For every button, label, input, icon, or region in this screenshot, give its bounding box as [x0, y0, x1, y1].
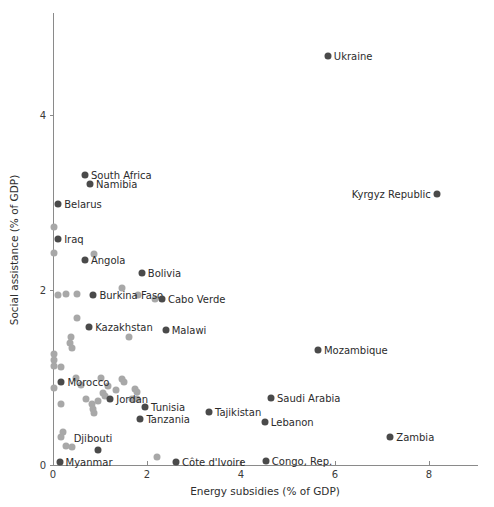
point-label: Ukraine: [334, 50, 373, 61]
data-point: [50, 250, 57, 257]
point-label: Morocco: [67, 376, 109, 387]
point-label: Lebanon: [271, 417, 314, 428]
data-point-malawi: [162, 326, 169, 333]
data-point-saudi-arabia: [267, 394, 274, 401]
data-point-jordan: [107, 395, 114, 402]
data-point: [57, 400, 64, 407]
data-point-lebanon: [261, 419, 268, 426]
data-point-cabo-verde: [158, 295, 165, 302]
x-tick-label: 8: [426, 469, 432, 480]
data-point-kazakhstan: [86, 323, 93, 330]
point-label: Congo, Rep.: [272, 455, 332, 466]
point-label: Myanmar: [66, 457, 113, 468]
point-label: Djibouti: [74, 433, 113, 444]
data-point-bolivia: [138, 269, 145, 276]
data-point: [55, 292, 62, 299]
data-point: [68, 443, 75, 450]
data-point-burkina-faso: [90, 291, 97, 298]
data-point-congo-rep: [262, 457, 269, 464]
data-point: [95, 398, 102, 405]
data-point: [121, 378, 128, 385]
data-point: [74, 290, 81, 297]
x-tick-mark: [147, 461, 148, 465]
data-point-tanzania: [137, 415, 144, 422]
x-axis-line: [53, 465, 478, 466]
x-tick-label: 0: [50, 469, 56, 480]
data-point-tunisia: [142, 404, 149, 411]
point-label: Burkina Faso: [99, 289, 163, 300]
data-point: [50, 224, 57, 231]
plot-area: 02468 024 UkraineSouth AfricaNamibiaKyrg…: [0, 0, 494, 507]
y-tick-label: 2: [34, 285, 46, 296]
data-point-djibouti: [94, 447, 101, 454]
data-point-ukraine: [324, 52, 331, 59]
point-label: Bolivia: [148, 267, 181, 278]
y-tick-label: 4: [34, 110, 46, 121]
data-point: [91, 409, 98, 416]
y-tick-mark: [50, 465, 54, 466]
point-label: Mozambique: [324, 344, 388, 355]
point-label: Tunisia: [151, 402, 185, 413]
data-point-south-africa: [81, 171, 88, 178]
data-point: [153, 454, 160, 461]
point-label: Kazakhstan: [95, 321, 153, 332]
data-point-namibia: [87, 181, 94, 188]
x-axis-title: Energy subsidies (% of GDP): [190, 485, 340, 497]
data-point: [69, 344, 76, 351]
point-label: Zambia: [396, 432, 434, 443]
data-point-tajikistan: [205, 408, 212, 415]
point-label: Jordan: [116, 393, 148, 404]
data-point: [57, 434, 64, 441]
data-point-morocco: [58, 378, 65, 385]
data-point-iraq: [55, 235, 62, 242]
x-tick-label: 6: [332, 469, 338, 480]
data-point: [74, 315, 81, 322]
data-point-angola: [81, 257, 88, 264]
point-label: Kyrgyz Republic: [352, 189, 431, 200]
x-tick-mark: [429, 461, 430, 465]
point-label: Tanzania: [146, 413, 190, 424]
point-label: Iraq: [64, 233, 84, 244]
point-label: Cabo Verde: [168, 293, 225, 304]
scatter-chart-figure: 02468 024 UkraineSouth AfricaNamibiaKyrg…: [0, 0, 494, 507]
x-tick-mark: [335, 461, 336, 465]
data-point: [62, 290, 69, 297]
data-point-kyrgyz-republic: [433, 191, 440, 198]
point-label: Belarus: [64, 198, 102, 209]
point-label: Angola: [91, 255, 126, 266]
x-tick-label: 4: [238, 469, 244, 480]
point-label: Saudi Arabia: [277, 392, 340, 403]
data-point: [57, 364, 64, 371]
point-label: Côte d'Ivoire: [182, 457, 245, 468]
data-point-c-te-d-ivoire: [173, 459, 180, 466]
data-point-mozambique: [314, 346, 321, 353]
data-point-myanmar: [56, 459, 63, 466]
data-point: [125, 334, 132, 341]
point-label: Tajikistan: [215, 406, 261, 417]
x-tick-label: 2: [144, 469, 150, 480]
y-tick-label: 0: [34, 460, 46, 471]
data-point-belarus: [55, 200, 62, 207]
y-tick-mark: [50, 115, 54, 116]
point-label: Malawi: [172, 324, 207, 335]
data-point: [50, 385, 57, 392]
y-tick-mark: [50, 290, 54, 291]
y-axis-title: Social assistance (% of GDP): [8, 175, 20, 326]
point-label: Namibia: [96, 179, 137, 190]
data-point-zambia: [387, 434, 394, 441]
